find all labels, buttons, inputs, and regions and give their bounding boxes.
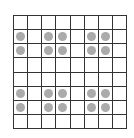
dot-icon <box>44 103 53 112</box>
dot-icon <box>58 32 67 41</box>
grid-cell <box>71 87 85 101</box>
dot-icon <box>87 46 96 55</box>
grid-cell <box>99 16 113 30</box>
grid-cell <box>85 87 99 101</box>
grid-cell <box>113 58 127 72</box>
grid-cell <box>113 101 127 115</box>
grid-cell <box>71 16 85 30</box>
grid-cell <box>99 87 113 101</box>
grid-cell <box>28 16 42 30</box>
grid-cell <box>28 44 42 58</box>
grid-cell <box>85 44 99 58</box>
dot-icon <box>87 103 96 112</box>
grid-cell <box>56 30 70 44</box>
grid-cell <box>85 16 99 30</box>
dot-icon <box>16 32 25 41</box>
grid-cell <box>113 30 127 44</box>
grid-cell <box>42 16 56 30</box>
grid-cell <box>99 30 113 44</box>
dot-icon <box>87 89 96 98</box>
grid-cell <box>42 30 56 44</box>
grid-cell <box>42 87 56 101</box>
dot-icon <box>16 103 25 112</box>
dot-icon <box>44 89 53 98</box>
grid-cell <box>14 87 28 101</box>
dot-icon <box>58 89 67 98</box>
grid-cell <box>71 115 85 129</box>
grid-cell <box>56 16 70 30</box>
grid-cell <box>56 44 70 58</box>
grid-cell <box>56 58 70 72</box>
grid-cell <box>28 101 42 115</box>
dot-icon <box>101 32 110 41</box>
grid-cell <box>113 115 127 129</box>
grid-cell <box>14 30 28 44</box>
grid-cell <box>14 16 28 30</box>
grid-cell <box>42 115 56 129</box>
dot-icon <box>58 103 67 112</box>
grid-cell <box>85 58 99 72</box>
grid-cell <box>42 58 56 72</box>
grid-cell <box>113 44 127 58</box>
grid-cell <box>14 58 28 72</box>
grid-cell <box>85 115 99 129</box>
grid-cell <box>28 73 42 87</box>
grid-cell <box>14 101 28 115</box>
grid-cell <box>99 101 113 115</box>
grid-cell <box>71 44 85 58</box>
grid-cell <box>14 73 28 87</box>
grid-cell <box>99 58 113 72</box>
grid-cell <box>71 101 85 115</box>
grid-cell <box>56 115 70 129</box>
dot-icon <box>16 89 25 98</box>
dot-icon <box>101 46 110 55</box>
grid-cell <box>71 30 85 44</box>
grid-cell <box>56 73 70 87</box>
grid-cell <box>14 44 28 58</box>
dot-icon <box>101 89 110 98</box>
grid-cell <box>99 44 113 58</box>
grid-cell <box>56 87 70 101</box>
dot-grid <box>13 15 127 129</box>
grid-cell <box>28 115 42 129</box>
grid-cell <box>113 73 127 87</box>
grid-cell <box>99 115 113 129</box>
grid-cell <box>85 30 99 44</box>
grid-cell <box>71 73 85 87</box>
dot-icon <box>44 46 53 55</box>
grid-cell <box>71 58 85 72</box>
grid-cell <box>99 73 113 87</box>
grid-cell <box>14 115 28 129</box>
grid-cell <box>42 101 56 115</box>
dot-icon <box>101 103 110 112</box>
dot-icon <box>44 32 53 41</box>
dot-icon <box>87 32 96 41</box>
grid-cell <box>85 73 99 87</box>
grid-cell <box>85 101 99 115</box>
dot-icon <box>58 46 67 55</box>
grid-cell <box>28 87 42 101</box>
grid-cell <box>42 73 56 87</box>
dot-icon <box>16 46 25 55</box>
grid-cell <box>113 16 127 30</box>
grid-cell <box>28 30 42 44</box>
grid-cell <box>56 101 70 115</box>
grid-cell <box>42 44 56 58</box>
grid-cell <box>28 58 42 72</box>
grid-cell <box>113 87 127 101</box>
